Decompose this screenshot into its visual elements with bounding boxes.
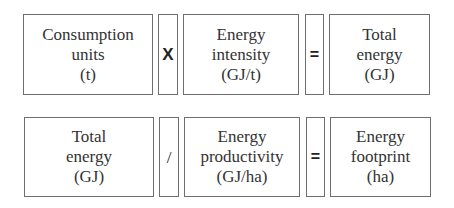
box-label-line: Total: [72, 127, 107, 147]
equals-operator-box: =: [305, 14, 324, 95]
equals-operator-box: =: [306, 117, 325, 197]
energy-intensity-box: Energy intensity (GJ/t): [183, 14, 299, 95]
total-energy-box: Total energy (GJ): [24, 117, 154, 197]
box-label-unit: (GJ): [74, 167, 104, 187]
equals-icon: =: [311, 149, 320, 165]
box-label-line: footprint: [351, 147, 411, 167]
box-label-line: energy: [357, 45, 403, 65]
total-energy-result-box: Total energy (GJ): [329, 14, 430, 95]
box-label-line: units: [71, 45, 104, 65]
box-label-line: intensity: [212, 45, 271, 65]
multiply-icon: X: [162, 46, 173, 63]
box-label-unit: (ha): [367, 167, 394, 187]
energy-footprint-result-box: Energy footprint (ha): [330, 117, 431, 197]
box-label-line: productivity: [200, 147, 283, 167]
divide-operator-box: /: [159, 117, 179, 197]
box-label-line: Energy: [217, 25, 266, 45]
box-label-line: energy: [66, 147, 112, 167]
multiply-operator-box: X: [158, 14, 178, 95]
box-label-line: Energy: [356, 127, 405, 147]
box-label-unit: (t): [80, 65, 96, 85]
box-label-unit: (GJ/t): [221, 65, 261, 85]
equals-icon: =: [310, 47, 319, 63]
energy-productivity-box: Energy productivity (GJ/ha): [184, 117, 300, 197]
box-label-unit: (GJ): [364, 65, 394, 85]
divide-icon: /: [167, 149, 172, 166]
box-label-line: Consumption: [42, 25, 134, 45]
box-label-unit: (GJ/ha): [217, 167, 268, 187]
box-label-line: Energy: [218, 127, 267, 147]
consumption-units-box: Consumption units (t): [23, 14, 153, 95]
box-label-line: Total: [362, 25, 397, 45]
